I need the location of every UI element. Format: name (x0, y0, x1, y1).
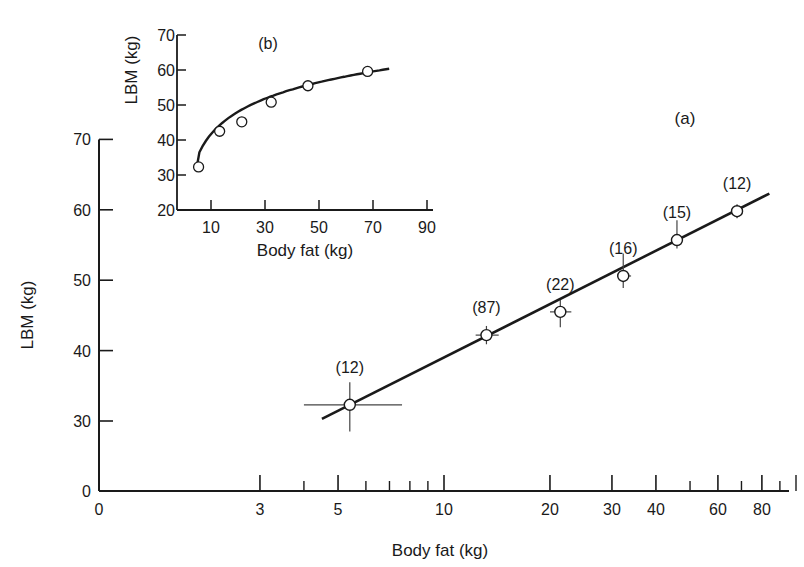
inset-y-tick-label: 60 (157, 62, 175, 79)
data-point-group: (12) (723, 175, 751, 218)
x-tick-label: 20 (541, 501, 559, 518)
data-point-group: (12) (304, 359, 402, 432)
data-point-marker (732, 206, 743, 217)
inset-y-tick-label: 70 (157, 27, 175, 44)
data-point-group: (87) (472, 299, 500, 344)
inset-axes: 1030507090203040506070 (157, 27, 436, 236)
sample-size-label: (15) (663, 204, 691, 221)
inset-data-point-marker (363, 66, 373, 76)
inset-y-tick-label: 40 (157, 132, 175, 149)
inset-x-tick-label: 50 (310, 219, 328, 236)
sample-size-label: (12) (336, 359, 364, 376)
inset-x-tick-label: 70 (364, 219, 382, 236)
inset-data-points (194, 66, 390, 172)
y-tick-label: 0 (82, 483, 91, 500)
main-data-points: (12)(87)(22)(16)(15)(12) (304, 175, 769, 431)
y-tick-label: 60 (73, 202, 91, 219)
inset-data-point-marker (237, 117, 247, 127)
inset-data-point-marker (215, 126, 225, 136)
main-plot-a: 03510203040608003040506070 (12)(87)(22)(… (18, 109, 796, 560)
data-point-group: (22) (546, 276, 574, 327)
x-tick-label: 5 (334, 501, 343, 518)
inset-fitted-curve (196, 69, 389, 171)
y-tick-label: 30 (73, 413, 91, 430)
inset-y-tick-label: 30 (157, 167, 175, 184)
inset-data-point-marker (266, 97, 276, 107)
lbm-vs-body-fat-figure: 03510203040608003040506070 (12)(87)(22)(… (0, 0, 804, 567)
x-tick-label: 40 (647, 501, 665, 518)
data-point-group: (15) (663, 204, 691, 248)
sample-size-label: (22) (546, 276, 574, 293)
sample-size-label: (12) (723, 175, 751, 192)
inset-data-point-marker (303, 81, 313, 91)
data-point-marker (481, 330, 492, 341)
x-tick-label: 0 (95, 501, 104, 518)
data-point-marker (344, 399, 355, 410)
y-tick-label: 40 (73, 343, 91, 360)
panel-label-a: (a) (675, 109, 696, 128)
y-tick-label: 50 (73, 272, 91, 289)
y-tick-label: 70 (73, 131, 91, 148)
data-point-marker (671, 235, 682, 246)
panel-label-b: (b) (258, 35, 278, 52)
x-tick-label: 3 (255, 501, 264, 518)
inset-y-axis-label: LBM (kg) (122, 36, 141, 105)
main-axes: 03510203040608003040506070 (73, 131, 796, 518)
main-y-axis-label: LBM (kg) (18, 281, 37, 350)
data-point-marker (618, 270, 629, 281)
inset-x-axis-label: Body fat (kg) (257, 241, 353, 260)
x-tick-label: 10 (435, 501, 453, 518)
main-x-axis-label: Body fat (kg) (392, 541, 488, 560)
sample-size-label: (87) (472, 299, 500, 316)
inset-data-point-marker (194, 162, 204, 172)
inset-y-tick-label: 20 (157, 202, 175, 219)
inset-x-tick-label: 30 (256, 219, 274, 236)
x-tick-label: 60 (709, 501, 727, 518)
x-tick-label: 80 (753, 501, 771, 518)
data-point-marker (555, 306, 566, 317)
inset-y-tick-label: 50 (157, 97, 175, 114)
inset-plot-b: 1030507090203040506070 (b) Body fat (kg)… (122, 27, 436, 260)
inset-x-tick-label: 90 (418, 219, 436, 236)
regression-line (322, 194, 769, 419)
x-tick-label: 30 (603, 501, 621, 518)
sample-size-label: (16) (609, 240, 637, 257)
data-point-group: (16) (609, 240, 637, 288)
inset-x-tick-label: 10 (202, 219, 220, 236)
